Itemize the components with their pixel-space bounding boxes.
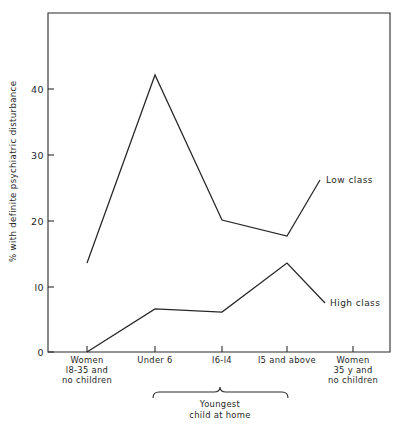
x-category-label-1: Under 6 [137,355,172,365]
y-axis-title: % with definite psychiatric disturbance [8,81,18,262]
cat-4-line-1: 35 y and [333,365,372,375]
cat-3-line-0: l5 and above [258,355,316,365]
y-axis-ticks [48,89,54,352]
cat-0-line-2: no children [62,375,112,385]
x-category-label-3: l5 and above [258,355,316,365]
cat-0-line-1: l8-35 and [66,365,108,375]
cat-1-line-0: Under 6 [137,355,172,365]
psychiatric-disturbance-line-chart: 0 l0 20 30 40 % with definite psychiatri… [0,0,397,427]
series-line-low-class [87,75,320,263]
x-category-label-4: Women 35 y and no children [328,355,378,385]
y-tick-label-30: 30 [31,150,44,161]
y-tick-label-0: 0 [38,347,44,358]
cat-2-line-0: l6-l4 [212,355,232,365]
cat-0-line-0: Women [70,355,103,365]
y-tick-label-20: 20 [31,216,44,227]
group-label-line-0: Youngest [199,399,241,409]
x-axis-ticks [87,346,353,352]
cat-4-line-0: Women [336,355,369,365]
x-category-label-2: l6-l4 [212,355,232,365]
series-label-low-class: Low class [326,175,373,185]
cat-4-line-2: no children [328,375,378,385]
series-label-high-class: High class [330,298,380,308]
x-category-label-0: Women l8-35 and no children [62,355,112,385]
group-brace [153,387,288,398]
chart-figure: 0 l0 20 30 40 % with definite psychiatri… [0,0,397,427]
y-tick-label-40: 40 [31,84,44,95]
y-tick-label-10: l0 [35,282,44,293]
group-label-line-1: child at home [189,410,250,420]
series-line-high-class [87,263,325,352]
